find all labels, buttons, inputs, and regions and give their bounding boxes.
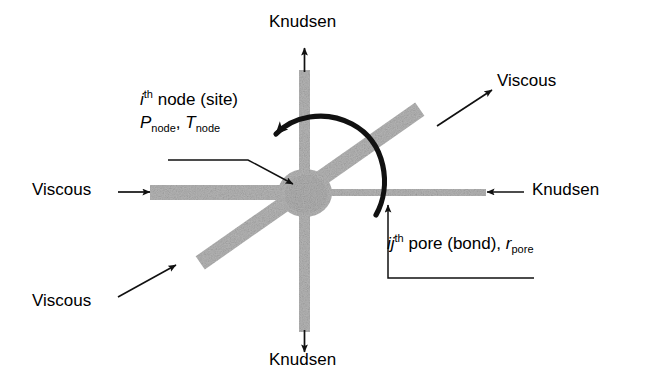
flow-label-knudsen-bottom: Knudsen (269, 351, 336, 370)
flow-label-viscous-top-right: Viscous (497, 72, 556, 91)
node-label-rest: node (site) (153, 90, 238, 109)
arrow-viscous-top-right (437, 90, 492, 126)
node-pressure-subscript: node (151, 122, 175, 134)
node-temperature-symbol: T (185, 113, 195, 132)
node-index-ordinal: th (144, 88, 153, 100)
flow-label-viscous-left: Viscous (32, 181, 91, 200)
flow-label-knudsen-right: Knudsen (532, 181, 599, 200)
node-annotation-line-1: ith node (site) (140, 89, 238, 112)
pore-annotation: ijth pore (bond), rpore (387, 233, 534, 256)
node-symbol-separator: , (176, 113, 185, 132)
center-node-blob-core (285, 175, 327, 213)
node-annotation-line-2: Pnode, Tnode (140, 112, 238, 135)
node-temperature-subscript: node (196, 122, 220, 134)
node-annotation: ith node (site) Pnode, Tnode (140, 89, 238, 135)
pore-index-ordinal: th (395, 232, 404, 244)
pore-network-diagram: Knudsen Viscous Knudsen Viscous Viscous … (0, 0, 645, 378)
node-leader-line (168, 160, 293, 184)
flow-label-viscous-bottom-left: Viscous (32, 292, 91, 311)
flow-label-knudsen-top: Knudsen (269, 13, 336, 32)
node-pressure-symbol: P (140, 113, 151, 132)
pore-radius-subscript: pore (511, 243, 533, 255)
pore-label-rest: pore (bond), (404, 234, 506, 253)
arrow-viscous-bottom-left (118, 265, 176, 297)
pore-index-symbol: ij (387, 234, 395, 253)
